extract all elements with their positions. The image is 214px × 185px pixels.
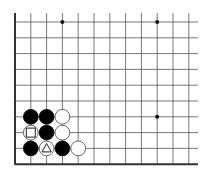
- star-point: [155, 115, 159, 119]
- star-point: [60, 20, 64, 24]
- white-stone[interactable]: [55, 109, 70, 124]
- star-point: [155, 20, 159, 24]
- black-stone[interactable]: [39, 109, 54, 124]
- go-board[interactable]: [0, 0, 214, 185]
- black-stone[interactable]: [55, 141, 70, 156]
- white-stone[interactable]: [71, 141, 86, 156]
- white-stone[interactable]: [55, 125, 70, 140]
- black-stone[interactable]: [23, 141, 38, 156]
- white-stone[interactable]: [39, 141, 54, 156]
- black-stone[interactable]: [23, 109, 38, 124]
- white-stone[interactable]: [23, 125, 38, 140]
- black-stone[interactable]: [39, 125, 54, 140]
